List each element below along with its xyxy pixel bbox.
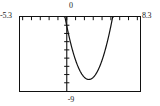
plot-frame — [19, 16, 141, 92]
x-min-label: -5.3 — [0, 11, 12, 20]
y-max-label: 0 — [60, 1, 82, 10]
y-min-label: -9 — [60, 95, 82, 104]
calculator-screen: -5.3 8.3 0 -9 — [0, 0, 160, 106]
x-max-label: 8.3 — [142, 11, 151, 20]
plot-canvas — [20, 17, 140, 91]
parabola-curve — [64, 17, 113, 79]
x-axis-tick-marks — [23, 17, 138, 20]
